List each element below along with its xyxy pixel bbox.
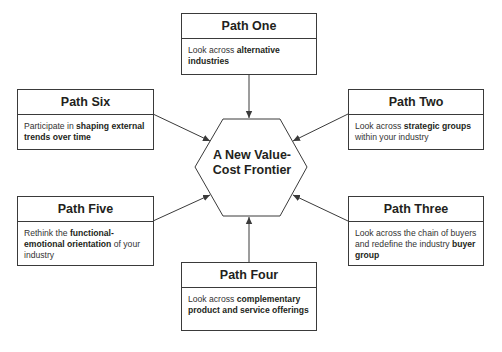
path-three-box: Path Three Look across the chain of buye… xyxy=(348,196,484,266)
path-three-title: Path Three xyxy=(349,197,483,222)
path-two-description: Look across strategic groups within your… xyxy=(349,115,483,143)
arrow-path-six xyxy=(153,114,210,141)
arrow-path-five xyxy=(153,195,210,221)
path-six-title: Path Six xyxy=(18,90,153,115)
path-two-box: Path Two Look across strategic groups wi… xyxy=(348,89,484,150)
arrow-path-three xyxy=(293,195,348,221)
description-emphasis: strategic groups xyxy=(404,121,471,131)
arrow-path-two xyxy=(293,114,348,141)
center-label-line1: A New Value- xyxy=(207,148,297,163)
path-four-title: Path Four xyxy=(182,263,316,288)
description-text: Look across xyxy=(355,121,404,131)
path-two-title: Path Two xyxy=(349,90,483,115)
center-label-line2: Cost Frontier xyxy=(207,163,297,178)
path-one-title: Path One xyxy=(182,14,316,39)
path-six-description: Participate in shaping external trends o… xyxy=(18,115,153,143)
center-label: A New Value- Cost Frontier xyxy=(207,148,297,178)
description-text: within your industry xyxy=(355,132,429,142)
path-one-description: Look across alternative industries xyxy=(182,39,316,67)
path-six-box: Path Six Participate in shaping external… xyxy=(17,89,154,150)
description-text: Participate in xyxy=(24,121,76,131)
path-five-description: Rethink the functional-emotional orienta… xyxy=(18,222,153,261)
path-five-title: Path Five xyxy=(18,197,153,222)
description-text: Rethink the xyxy=(24,228,70,238)
path-three-description: Look across the chain of buyers and rede… xyxy=(349,222,483,261)
description-text: Look across xyxy=(188,45,237,55)
path-four-box: Path Four Look across complementary prod… xyxy=(181,262,317,331)
path-four-description: Look across complementary product and se… xyxy=(182,288,316,316)
path-one-box: Path One Look across alternative industr… xyxy=(181,13,317,75)
path-five-box: Path Five Rethink the functional-emotion… xyxy=(17,196,154,266)
description-text: Look across xyxy=(188,294,237,304)
